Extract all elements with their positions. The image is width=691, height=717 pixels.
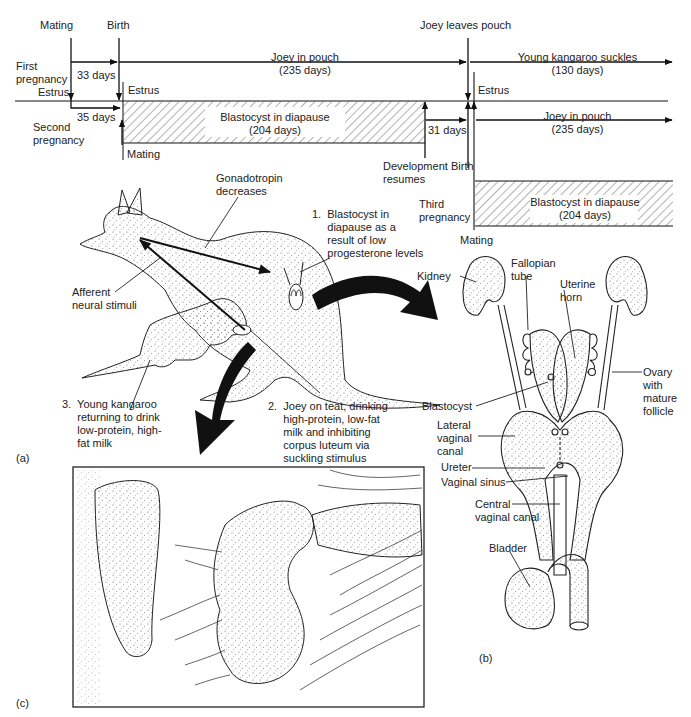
interval-31-days-label: 31 days: [428, 124, 467, 137]
panel-c-frame: [73, 467, 424, 707]
panel-a-id: (a): [16, 452, 29, 465]
mating-second-label: Mating: [127, 148, 160, 161]
bladder-label: Bladder: [489, 542, 527, 555]
diapause-third-label: Blastocyst in diapause (204 days): [515, 196, 655, 222]
note-3-young-kangaroo: 3. Young kangaroo returning to drink low…: [62, 398, 162, 450]
panel-b-id: (b): [479, 652, 492, 665]
panel-c-id: (c): [16, 697, 29, 710]
fallopian-tube-label: Fallopian tube: [511, 257, 556, 283]
event-birth-label: Birth: [107, 19, 130, 32]
note-1-blastocyst: 1. Blastocyst in diapause as a result of…: [312, 208, 423, 260]
gonadotropin-label: Gonadotropin decreases: [216, 172, 283, 198]
joey-in-pouch-first-label: Joey in pouch (235 days): [230, 51, 380, 77]
note-2-joey-on-teat: 2. Joey on teat, drinking high-protein, …: [268, 400, 388, 465]
event-mating-label: Mating: [40, 19, 73, 32]
figure-drawing: [0, 0, 691, 717]
blastocyst-label: Blastocyst: [422, 400, 472, 413]
central-vaginal-canal-label: Central vaginal canal: [475, 498, 539, 524]
afferent-stimuli-label: Afferent neural stimuli: [72, 286, 137, 312]
lateral-vaginal-canal-label: Lateral vaginal canal: [437, 419, 472, 458]
ureter-label: Ureter: [441, 461, 472, 474]
diapause-second-label: Blastocyst in diapause (204 days): [200, 111, 350, 137]
gestation-33-days-label: 33 days: [77, 69, 116, 82]
mating-third-label: Mating: [460, 234, 493, 247]
joey-in-pouch-second-label: Joey in pouch (235 days): [505, 110, 650, 136]
kangaroo-reproduction-figure: Mating Birth Joey leaves pouch First pre…: [0, 0, 691, 717]
uterine-horn-label: Uterine horn: [560, 278, 595, 304]
estrus-label-1: Estrus: [38, 86, 69, 99]
event-joey-leaves-pouch-label: Joey leaves pouch: [420, 19, 511, 32]
estrus-label-3: Estrus: [478, 84, 509, 97]
development-resumes-label: Development resumes: [383, 160, 448, 186]
second-pregnancy-label: Second pregnancy: [33, 121, 84, 147]
kidney-label: Kidney: [417, 270, 451, 283]
young-kangaroo-suckles-label: Young kangaroo suckles (130 days): [505, 51, 650, 77]
vaginal-sinus-label: Vaginal sinus: [441, 476, 506, 489]
first-pregnancy-label: First pregnancy: [16, 60, 67, 86]
reproductive-tract-drawing: [463, 257, 647, 630]
ovary-label: Ovary with mature follicle: [643, 366, 677, 418]
third-pregnancy-label: Third pregnancy: [419, 198, 470, 224]
estrus-label-2: Estrus: [128, 84, 159, 97]
birth-second-label: Birth: [451, 160, 474, 173]
